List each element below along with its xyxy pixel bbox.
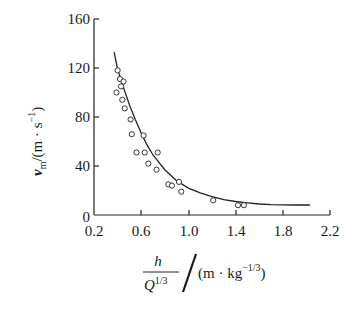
- data-point-circle: [241, 203, 246, 208]
- y-tick-label: 80: [75, 109, 90, 125]
- svg-text:vm/(m · s−1): vm/(m · s−1): [26, 107, 48, 176]
- data-point-circle: [121, 79, 126, 84]
- data-point-circle: [114, 90, 119, 95]
- x-axis-unit: (m · kg−1/3): [198, 262, 266, 282]
- fit-curve-line: [114, 52, 310, 205]
- unit-slash: [183, 254, 196, 292]
- scatter-chart: 160 120 80 40 0 0.2 0.6 1.0 1.4 1.8 2.2 …: [0, 0, 354, 315]
- data-point-circle: [211, 198, 216, 203]
- data-point-circle: [142, 150, 147, 155]
- data-point-circle: [120, 97, 125, 102]
- data-point-circle: [128, 117, 133, 122]
- y-tick-labels: 160 120 80 40 0: [68, 11, 91, 225]
- x-tick-label: 1.4: [227, 223, 246, 239]
- data-point-circle: [154, 167, 159, 172]
- data-point-circle: [119, 84, 124, 89]
- data-point-circle: [141, 133, 146, 138]
- x-tick-label: 0.6: [132, 223, 151, 239]
- x-axis-denominator: Q1/3: [144, 275, 168, 293]
- data-point-circle: [122, 106, 127, 111]
- y-tick-label: 120: [68, 60, 91, 76]
- y-tick-label: 40: [75, 158, 90, 174]
- data-points: [114, 68, 247, 208]
- x-axis-title: h Q1/3 (m · kg−1/3): [143, 253, 266, 293]
- data-point-circle: [129, 132, 134, 137]
- x-tick-label: 2.2: [321, 223, 340, 239]
- x-axis-numerator: h: [154, 253, 162, 269]
- data-point-circle: [155, 150, 160, 155]
- data-point-circle: [176, 179, 181, 184]
- x-tick-label: 1.8: [274, 223, 293, 239]
- x-tick-label: 0.2: [85, 223, 104, 239]
- y-axis-title: vm/(m · s−1): [26, 107, 48, 176]
- y-tick-label: 160: [68, 11, 91, 27]
- fit-curve: [114, 52, 310, 205]
- data-point-circle: [169, 183, 174, 188]
- x-tick-labels: 0.2 0.6 1.0 1.4 1.8 2.2: [85, 223, 340, 239]
- data-point-circle: [179, 189, 184, 194]
- data-point-circle: [115, 68, 120, 73]
- data-point-circle: [134, 150, 139, 155]
- data-point-circle: [235, 203, 240, 208]
- data-point-circle: [146, 161, 151, 166]
- x-tick-label: 1.0: [180, 223, 199, 239]
